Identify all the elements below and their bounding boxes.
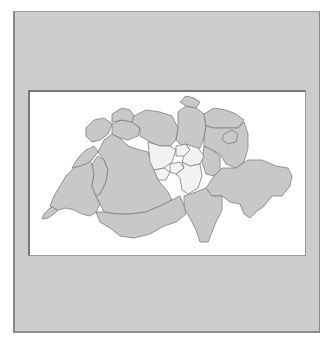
canton-ticino[interactable] xyxy=(184,188,222,242)
canton-zurich[interactable] xyxy=(176,106,206,150)
canton-schaffhausen[interactable] xyxy=(180,96,200,108)
switzerland-map xyxy=(0,0,331,350)
canton-thurgau[interactable] xyxy=(204,108,244,128)
canton-basel[interactable] xyxy=(112,108,134,122)
